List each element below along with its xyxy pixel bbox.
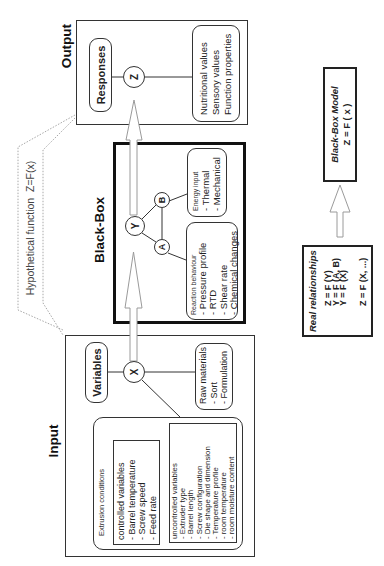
arrow-real-to-model-icon — [330, 185, 350, 237]
node-x: X — [123, 361, 145, 383]
node-b: B — [154, 192, 170, 208]
extrusion-black-box-diagram: Hypothetical function Z=F(x) Input Varia… — [0, 0, 384, 566]
node-a: A — [154, 239, 170, 255]
arrow-x-to-y-icon — [125, 252, 142, 361]
arrow-y-to-z-icon — [126, 100, 142, 215]
node-y: Y — [125, 216, 145, 236]
arrows-layer — [0, 0, 384, 566]
node-z: Z — [123, 66, 145, 88]
